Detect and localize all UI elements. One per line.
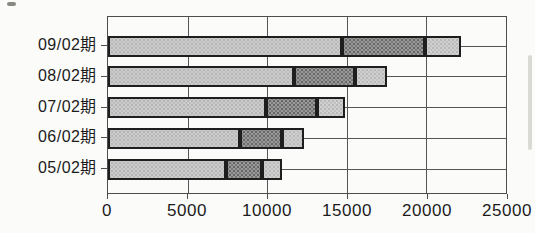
x-axis-tick: [507, 194, 508, 199]
bar-segment-segment-2-dark: [294, 66, 354, 87]
bar-segment-segment-1-light: [108, 97, 266, 118]
bar-segment-segment-3-light: [282, 128, 304, 149]
x-axis-tick-label: 10000: [242, 201, 292, 221]
bar-segment-segment-2-dark: [240, 128, 281, 149]
bar-segment-segment-3-light: [355, 66, 387, 87]
scan-artifact-top-left: [7, 2, 16, 6]
x-axis-tick-label: 25000: [482, 201, 532, 221]
scan-artifact-right-edge: [528, 55, 532, 150]
bar-segment-segment-3-light: [425, 36, 462, 57]
bar-segment-segment-2-dark: [266, 97, 317, 118]
x-axis-tick: [267, 194, 268, 199]
y-axis-label: 09/02期: [0, 35, 97, 55]
x-axis-tick: [187, 194, 188, 199]
bar-row: [108, 97, 506, 118]
x-axis-tick-label: 5000: [167, 201, 207, 221]
y-axis-label: 07/02期: [0, 97, 97, 117]
x-axis-tick-label: 20000: [402, 201, 452, 221]
y-axis-label: 05/02期: [0, 158, 97, 178]
bar-segment-segment-1-light: [108, 66, 294, 87]
bar-row: [108, 66, 506, 87]
y-axis-label: 08/02期: [0, 66, 97, 86]
y-axis-label: 06/02期: [0, 127, 97, 147]
x-axis-tick-label: 0: [102, 201, 112, 221]
y-axis-tick: [101, 76, 107, 77]
bar-row: [108, 36, 506, 57]
bar-segment-segment-3-light: [317, 97, 346, 118]
bar-segment-segment-1-light: [108, 128, 240, 149]
bar-row: [108, 159, 506, 180]
y-axis-tick: [101, 137, 107, 138]
x-axis-tick: [427, 194, 428, 199]
bar-segment-segment-3-light: [262, 159, 281, 180]
y-axis-tick: [101, 45, 107, 46]
x-axis-tick: [347, 194, 348, 199]
y-axis-tick: [101, 107, 107, 108]
bar-row: [108, 128, 506, 149]
bar-segment-segment-2-dark: [226, 159, 263, 180]
plot-area: [107, 16, 507, 194]
bar-chart-figure: 09/02期08/02期07/02期06/02期05/02期 050001000…: [0, 0, 535, 233]
x-axis-tick-label: 15000: [322, 201, 372, 221]
y-axis-tick: [101, 168, 107, 169]
bar-segment-segment-1-light: [108, 159, 226, 180]
x-axis-tick: [107, 194, 108, 199]
bar-segment-segment-1-light: [108, 36, 342, 57]
bar-segment-segment-2-dark: [342, 36, 425, 57]
